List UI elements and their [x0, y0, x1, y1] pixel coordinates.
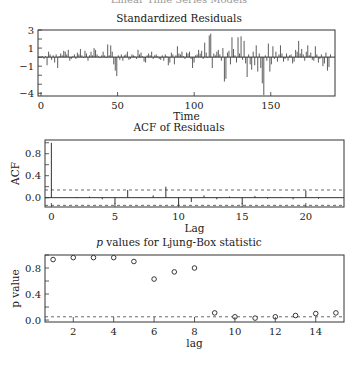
chart-canvas: 31−1−4050100150Time0.00.40.805101520LagA… — [0, 0, 358, 370]
svg-text:ACF: ACF — [9, 162, 21, 186]
svg-text:5: 5 — [112, 211, 118, 222]
acf-plot — [45, 140, 344, 207]
svg-text:0.0: 0.0 — [25, 192, 41, 203]
svg-text:20: 20 — [299, 211, 312, 222]
svg-text:15: 15 — [236, 211, 249, 222]
svg-text:Lag: Lag — [185, 222, 205, 234]
svg-text:12: 12 — [269, 326, 282, 337]
svg-text:lag: lag — [186, 337, 203, 349]
svg-text:0: 0 — [38, 100, 44, 111]
svg-text:4: 4 — [111, 326, 117, 337]
svg-text:10: 10 — [172, 211, 185, 222]
svg-text:8: 8 — [191, 326, 197, 337]
svg-text:10: 10 — [229, 326, 242, 337]
residuals-plot — [38, 30, 335, 96]
svg-text:2: 2 — [70, 326, 76, 337]
svg-text:0.4: 0.4 — [25, 170, 41, 181]
svg-text:150: 150 — [261, 100, 280, 111]
ljungbox-plot — [45, 255, 344, 322]
svg-text:0.4: 0.4 — [25, 289, 41, 300]
svg-text:14: 14 — [309, 326, 322, 337]
svg-text:0.0: 0.0 — [25, 315, 41, 326]
svg-text:0: 0 — [48, 211, 54, 222]
svg-text:3: 3 — [28, 25, 34, 36]
svg-text:−4: −4 — [19, 88, 34, 99]
svg-text:−1: −1 — [19, 61, 34, 72]
svg-text:p value: p value — [9, 269, 21, 308]
svg-text:0.8: 0.8 — [25, 263, 41, 274]
svg-text:0.8: 0.8 — [25, 148, 41, 159]
svg-text:50: 50 — [111, 100, 124, 111]
svg-text:Time: Time — [173, 110, 200, 122]
svg-text:1: 1 — [28, 43, 34, 54]
svg-text:6: 6 — [151, 326, 157, 337]
